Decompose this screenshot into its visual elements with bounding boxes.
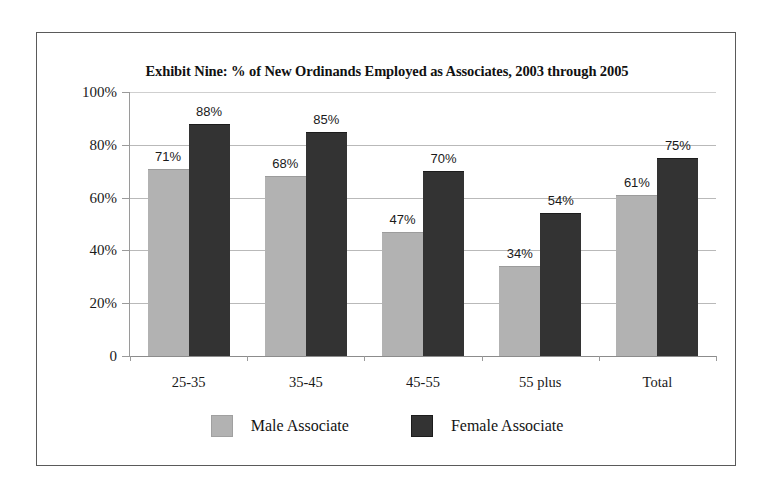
legend-label: Male Associate [251,417,349,435]
x-axis-tick [130,356,131,361]
x-axis-label-55-plus: 55 plus [519,374,561,391]
bar-female-Total [657,158,698,356]
legend-item-female-associate: Female Associate [411,415,563,437]
y-axis-line [129,92,130,356]
y-axis-tick-label: 40% [90,242,118,259]
legend-swatch [411,415,433,437]
bar-female-45-55 [423,171,464,356]
x-axis-tick [599,356,600,361]
bar-female-35-45 [306,132,347,356]
x-axis-tick [716,356,717,361]
bar-value-label: 61% [624,175,650,190]
legend-item-male-associate: Male Associate [211,415,349,437]
bar-male-Total [616,195,657,356]
bar-female-25-35 [189,124,230,356]
chart-title: Exhibit Nine: % of New Ordinands Employe… [37,63,737,80]
y-axis-tick-label: 60% [90,189,118,206]
y-axis-tick [122,198,130,199]
x-axis-label-45-55: 45-55 [406,374,440,391]
bar-value-label: 70% [430,151,456,166]
chart-frame: Exhibit Nine: % of New Ordinands Employe… [36,32,736,466]
bar-value-label: 54% [548,193,574,208]
x-axis-tick [482,356,483,361]
legend-swatch [211,415,233,437]
y-axis-tick-label: 80% [90,136,118,153]
bar-value-label: 75% [665,138,691,153]
bar-male-25-35 [148,169,189,356]
bar-value-label: 85% [313,112,339,127]
bar-value-label: 71% [155,149,181,164]
bar-male-55-plus [499,266,540,356]
y-axis-tick-label: 100% [82,84,117,101]
gridline [130,92,716,93]
x-axis-label-35-45: 35-45 [289,374,323,391]
y-axis-tick [122,356,130,357]
plot-area: 020%40%60%80%100% 71%88%68%85%47%70%34%5… [130,92,716,356]
legend-label: Female Associate [451,417,563,435]
y-axis-tick [122,145,130,146]
y-axis-tick [122,303,130,304]
x-axis-label-Total: Total [643,374,673,391]
chart-page: Exhibit Nine: % of New Ordinands Employe… [0,0,774,499]
x-axis-tick [364,356,365,361]
y-axis-tick-label: 0 [110,348,118,365]
bar-value-label: 47% [389,212,415,227]
y-axis-tick [122,250,130,251]
bar-female-55-plus [540,213,581,356]
bar-value-label: 68% [272,156,298,171]
y-axis-tick-label: 20% [90,295,118,312]
x-axis-label-25-35: 25-35 [172,374,206,391]
chart-legend: Male AssociateFemale Associate [37,415,737,437]
gridline [130,356,716,357]
bar-male-45-55 [382,232,423,356]
bar-value-label: 34% [507,246,533,261]
y-axis-tick [122,92,130,93]
bar-value-label: 88% [196,104,222,119]
bar-male-35-45 [265,176,306,356]
x-axis-tick [247,356,248,361]
